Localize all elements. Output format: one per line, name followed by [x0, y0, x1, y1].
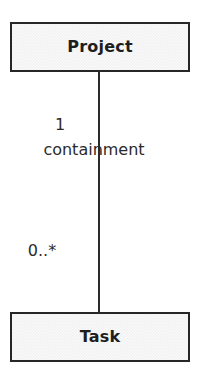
- uml-class-diagram: Project 1 containment 0..* Task: [0, 0, 202, 382]
- class-box-task[interactable]: Task: [10, 312, 190, 362]
- class-name-project: Project: [67, 39, 132, 55]
- association-name-label: containment: [4, 142, 184, 158]
- class-name-task: Task: [80, 329, 121, 345]
- association-source-multiplicity: 1: [0, 117, 120, 133]
- association-line[interactable]: [98, 71, 100, 313]
- association-target-multiplicity: 0..*: [0, 243, 84, 259]
- class-box-project[interactable]: Project: [10, 22, 190, 72]
